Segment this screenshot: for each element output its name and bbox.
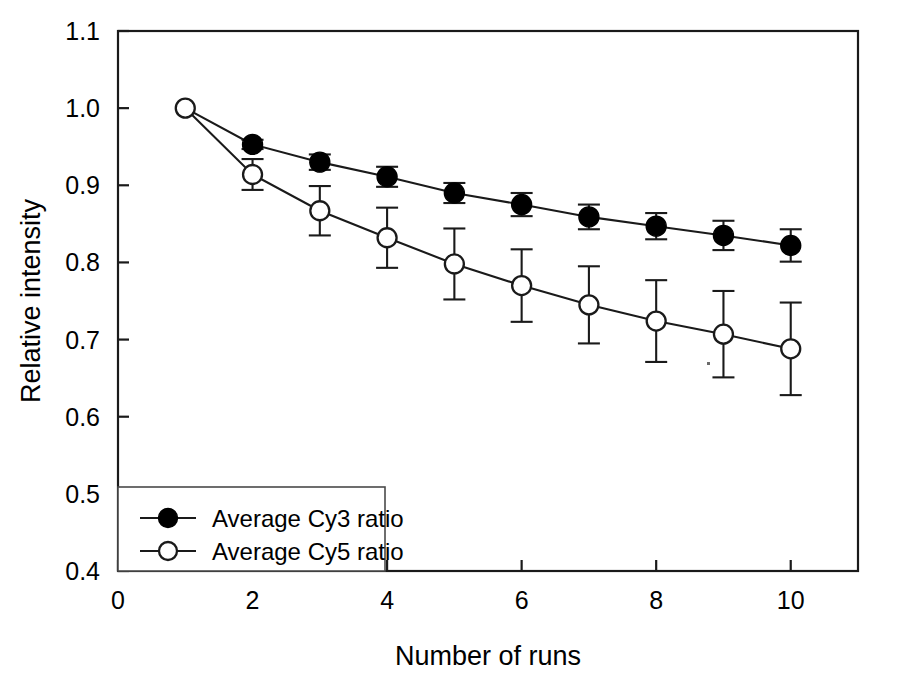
data-series-layer xyxy=(176,99,802,395)
data-point-open xyxy=(714,325,733,344)
x-axis-tick-labels: 0246810 xyxy=(111,586,805,614)
data-point-filled xyxy=(512,195,532,215)
data-point-filled xyxy=(781,235,801,255)
chart-figure: 0.40.50.60.70.80.91.01.1 0246810 Average… xyxy=(0,0,904,683)
data-point-open xyxy=(310,201,329,220)
x-tick-label: 10 xyxy=(777,586,805,614)
data-point-filled xyxy=(310,152,330,172)
data-point-open xyxy=(445,254,464,273)
chart-legend: Average Cy3 ratioAverage Cy5 ratio xyxy=(118,487,404,571)
data-point-open xyxy=(579,295,598,314)
x-tick-label: 6 xyxy=(515,586,529,614)
y-tick-label: 0.5 xyxy=(65,480,100,508)
data-point-filled xyxy=(713,225,733,245)
data-point-filled xyxy=(243,134,263,154)
y-tick-label: 0.8 xyxy=(65,248,100,276)
series-cy5 xyxy=(176,99,802,395)
series-line xyxy=(185,108,790,245)
y-tick-label: 0.4 xyxy=(65,557,100,585)
y-axis-tick-labels: 0.40.50.60.70.80.91.01.1 xyxy=(65,17,100,585)
y-tick-label: 1.0 xyxy=(65,94,100,122)
y-tick-label: 1.1 xyxy=(65,17,100,45)
data-point-open xyxy=(243,165,262,184)
relative-intensity-line-chart: 0.40.50.60.70.80.91.01.1 0246810 Average… xyxy=(0,0,904,683)
scan-speck xyxy=(707,362,710,365)
data-point-filled xyxy=(444,183,464,203)
x-tick-label: 2 xyxy=(246,586,260,614)
y-tick-label: 0.6 xyxy=(65,403,100,431)
x-tick-label: 0 xyxy=(111,586,125,614)
x-axis-title: Number of runs xyxy=(395,641,581,671)
legend-marker-open xyxy=(159,542,177,560)
data-point-filled xyxy=(377,167,397,187)
data-point-open xyxy=(378,228,397,247)
data-point-open xyxy=(512,276,531,295)
x-tick-label: 8 xyxy=(649,586,663,614)
data-point-filled xyxy=(646,216,666,236)
legend-marker-filled xyxy=(159,509,178,528)
series-line xyxy=(185,108,790,349)
data-point-filled xyxy=(579,207,599,227)
series-cy3 xyxy=(185,108,801,262)
y-tick-label: 0.9 xyxy=(65,171,100,199)
data-point-open xyxy=(647,312,666,331)
data-point-open xyxy=(781,339,800,358)
legend-label: Average Cy5 ratio xyxy=(212,538,404,565)
data-point-open xyxy=(176,99,195,118)
y-axis-title: Relative intensity xyxy=(16,198,46,403)
y-tick-label: 0.7 xyxy=(65,326,100,354)
x-tick-label: 4 xyxy=(380,586,394,614)
legend-label: Average Cy3 ratio xyxy=(212,505,404,532)
